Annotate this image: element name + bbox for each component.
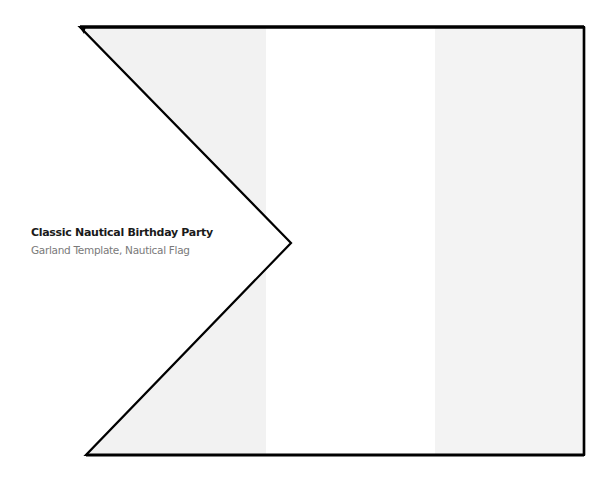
stripe-middle: [266, 20, 435, 460]
caption-subtitle: Garland Template, Nautical Flag: [31, 244, 213, 256]
caption-title: Classic Nautical Birthday Party: [31, 226, 213, 239]
stripe-right: [435, 20, 595, 460]
caption: Classic Nautical Birthday Party Garland …: [31, 226, 213, 256]
